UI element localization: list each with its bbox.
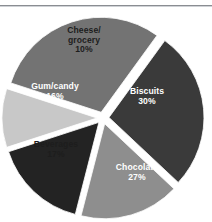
pie-slice-group: [2, 17, 204, 218]
pie-chart-canvas: [0, 0, 212, 222]
pie-chart-figure: Biscuits 30% Chocolate 27% Beverages 17%…: [0, 0, 212, 222]
